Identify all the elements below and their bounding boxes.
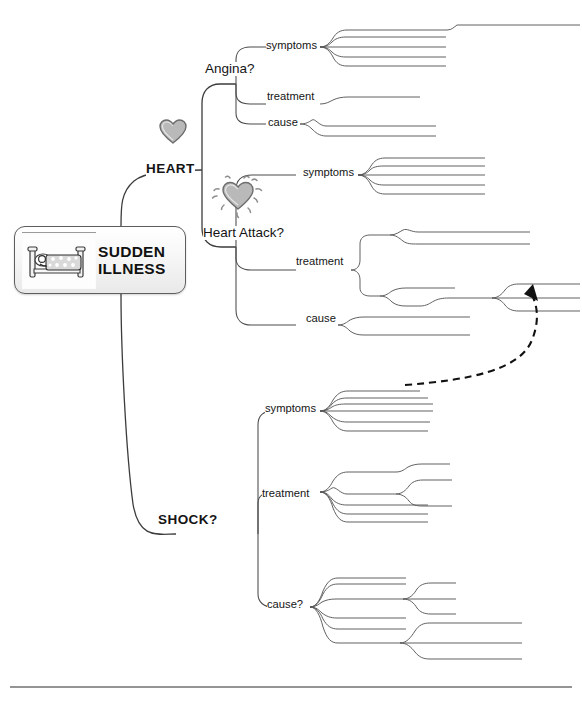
shock-subspine (258, 411, 296, 607)
heart-attack-treatment-leaves (351, 229, 580, 311)
heart-attack-cause-leaves (338, 317, 470, 335)
angina-symptoms-leaves (320, 25, 580, 66)
central-topic-label: SUDDEN ILLNESS (98, 243, 166, 278)
branch-label-heart-attack-treatment[interactable]: treatment (296, 256, 343, 267)
heart-icon (158, 117, 188, 151)
heart-attack-symptoms-leaves (358, 158, 485, 194)
branch-label-shock-cause[interactable]: cause? (267, 599, 303, 610)
branch-label-heart-attack-cause[interactable]: cause (306, 313, 336, 324)
branch-label-heart-attack[interactable]: Heart Attack? (203, 226, 284, 240)
shock-treatment-leaves (320, 464, 452, 522)
branch-label-shock[interactable]: SHOCK? (158, 513, 218, 527)
branch-label-heart[interactable]: HEART (146, 162, 195, 176)
bed-patient-icon (22, 232, 96, 289)
angina-cause-leaves (300, 120, 436, 136)
spine-shock (121, 294, 176, 534)
branch-label-heart-attack-symptoms[interactable]: symptoms (303, 167, 354, 178)
branch-label-angina[interactable]: Angina? (205, 62, 255, 76)
branch-label-shock-treatment[interactable]: treatment (262, 488, 309, 499)
shock-cause-leaves (310, 578, 522, 659)
spine-heart (121, 170, 202, 226)
branch-label-angina-treatment[interactable]: treatment (267, 91, 314, 102)
branch-label-shock-symptoms[interactable]: symptoms (265, 403, 316, 414)
angina-subspine (236, 47, 266, 124)
angina-treatment-leaves (320, 97, 420, 104)
branch-label-angina-symptoms[interactable]: symptoms (266, 40, 317, 51)
central-topic-node[interactable]: SUDDEN ILLNESS (14, 226, 186, 294)
dashed-relationship-arrow (405, 284, 538, 385)
branch-label-angina-cause[interactable]: cause (268, 117, 298, 128)
mindmap-branch-lines (0, 0, 582, 701)
shock-symptoms-leaves (320, 391, 433, 431)
heart-burst-icon (210, 165, 266, 225)
mind-map-canvas: SUDDEN ILLNESS (0, 0, 582, 701)
